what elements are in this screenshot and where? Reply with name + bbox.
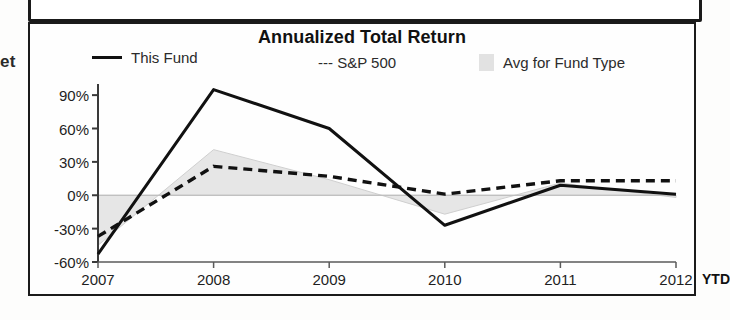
- y-axis-tick-label: -60%: [54, 254, 89, 271]
- legend-item-sp500: --- S&P 500: [318, 54, 396, 71]
- ytd-label: YTD: [702, 271, 730, 287]
- y-axis-tick-label: 0%: [67, 187, 89, 204]
- adjacent-panel-fragment: [28, 0, 702, 22]
- chart-legend: This Fund --- S&P 500 Avg for Fund Type: [30, 49, 694, 75]
- x-axis-tick-label: 2011: [544, 271, 576, 288]
- chart-title: Annualized Total Return: [30, 27, 694, 48]
- left-margin-text-fragment: et: [0, 52, 16, 72]
- annualized-total-return-chart: Annualized Total Return This Fund --- S&…: [28, 22, 696, 296]
- legend-label-avg-fund-type: Avg for Fund Type: [503, 54, 625, 71]
- y-axis-tick-label: 30%: [59, 153, 89, 170]
- plot-area: 90%60%30%0%-30%-60%200720082009201020112…: [98, 84, 676, 262]
- x-axis-tick-label: 2007: [81, 271, 114, 288]
- x-axis-tick-label: 2009: [313, 271, 346, 288]
- chart-canvas: [98, 84, 676, 262]
- x-axis-tick-label: 2008: [197, 271, 230, 288]
- legend-item-this-fund: This Fund: [92, 49, 198, 66]
- area-swatch-icon: [479, 54, 494, 71]
- x-axis-tick-label: 2012: [659, 271, 692, 288]
- legend-label-this-fund: This Fund: [131, 49, 198, 66]
- y-axis-tick-label: 60%: [59, 120, 89, 137]
- y-axis-tick-label: 90%: [59, 87, 89, 104]
- legend-label-sp500: --- S&P 500: [318, 54, 396, 71]
- y-axis-tick-label: -30%: [54, 220, 89, 237]
- legend-item-avg-fund-type: Avg for Fund Type: [479, 54, 625, 71]
- solid-line-icon: [92, 56, 122, 59]
- x-axis-tick-label: 2010: [428, 271, 461, 288]
